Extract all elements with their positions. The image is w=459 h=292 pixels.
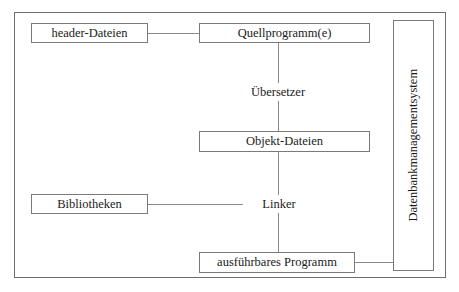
diagram-canvas: header-Dateien Quellprogramm(e) Übersetz… — [0, 0, 459, 292]
node-quellprogramm: Quellprogramm(e) — [199, 23, 370, 43]
node-uebersetzer: Übersetzer — [218, 83, 338, 101]
connector-objekt-dateien-to-linker — [278, 152, 279, 199]
node-linker: Linker — [243, 195, 315, 213]
node-header-dateien: header-Dateien — [31, 23, 148, 43]
connector-bibliotheken-to-linker — [148, 204, 245, 205]
connector-ausfuehrbares-programm-to-dbms — [355, 262, 393, 263]
node-bibliotheken: Bibliotheken — [31, 194, 148, 214]
connector-linker-to-ausfuehrbares-programm — [278, 209, 279, 252]
node-ausfuehrbares-programm: ausführbares Programm — [199, 252, 355, 273]
node-datenbankmanagementsystem: Datenbankmanagementsystem — [393, 20, 434, 271]
connector-quellprogramm-to-uebersetzer — [278, 43, 279, 87]
node-objekt-dateien: Objekt-Dateien — [199, 131, 370, 152]
node-dbms-label: Datenbankmanagementsystem — [407, 69, 420, 222]
connector-header-to-quellprogramm — [148, 33, 199, 34]
connector-uebersetzer-to-objekt-dateien — [278, 97, 279, 131]
